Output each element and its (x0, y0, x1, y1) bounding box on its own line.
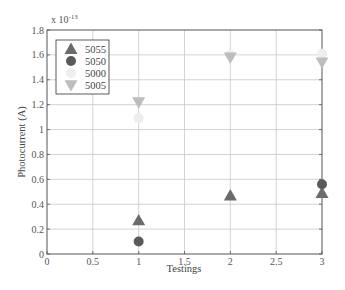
legend-item-5055: 5055 (65, 43, 107, 56)
legend-item-5050: 5050 (66, 56, 106, 67)
x-tick-label: 0.5 (87, 256, 100, 267)
y-tick-label: 1.2 (32, 99, 45, 110)
x-tick-label: 1 (136, 256, 141, 267)
data-point-5050 (134, 237, 144, 247)
data-point-5000 (317, 49, 327, 59)
x-tick-label: 2.5 (270, 256, 283, 267)
legend-label: 5000 (85, 68, 106, 79)
legend-label: 5005 (85, 80, 106, 91)
y-tick-label: 0.6 (32, 174, 45, 185)
data-point-5055 (224, 189, 237, 200)
legend-label: 5055 (85, 44, 106, 55)
data-point-5055 (132, 214, 145, 225)
scatter-chart: 00.511.522.5300.20.40.60.811.21.41.61.8 … (0, 0, 345, 290)
y-tick-label: 1.6 (32, 49, 45, 60)
legend-marker-5050 (66, 56, 76, 66)
y-tick-label: 0.8 (32, 149, 45, 160)
data-point-5050 (317, 179, 327, 189)
legend-item-5005: 5005 (65, 80, 107, 92)
data-point-5005 (316, 57, 329, 68)
legend-item-5000: 5000 (66, 68, 106, 79)
y-tick-label: 0.2 (32, 224, 45, 235)
x-tick-label: 2 (228, 256, 233, 267)
x-axis-label: Testings (167, 263, 202, 274)
y-tick-label: 1.4 (32, 74, 45, 85)
x-tick-label: 0 (45, 256, 50, 267)
legend: 5055505050005005 (56, 40, 109, 94)
y-tick-label: 1 (39, 124, 44, 135)
data-point-5005 (224, 53, 237, 64)
y-axis-label: Photocurrent (A) (16, 106, 28, 178)
data-point-5000 (134, 113, 144, 123)
y-tick-label: 0.4 (32, 199, 45, 210)
legend-label: 5050 (85, 56, 106, 67)
y-exponent-label: x 10-13 (51, 13, 78, 25)
x-tick-label: 3 (320, 256, 325, 267)
data-point-5005 (132, 97, 145, 108)
legend-marker-5000 (66, 68, 76, 78)
y-tick-label: 1.8 (32, 25, 45, 36)
y-tick-label: 0 (39, 249, 44, 260)
